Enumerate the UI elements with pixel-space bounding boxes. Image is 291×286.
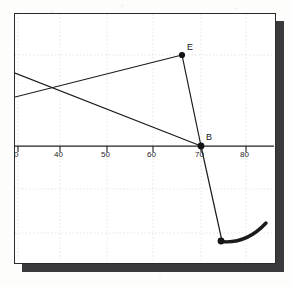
data-lines — [15, 55, 222, 241]
rising-line — [15, 55, 182, 97]
falling-line — [15, 73, 201, 146]
scanned-figure: 0 40 50 60 70 80 E B — [0, 0, 291, 286]
x-tick-label-80: 80 — [240, 150, 249, 159]
x-tick-label-50: 50 — [101, 150, 110, 159]
data-point-markers — [179, 52, 225, 245]
point-marker-v — [218, 238, 225, 245]
gridlines — [15, 14, 274, 262]
x-tick-label-70: 70 — [195, 150, 204, 159]
point-label-b: B — [206, 132, 212, 142]
point-marker-b — [198, 143, 205, 150]
plot-area: 0 40 50 60 70 80 E B — [15, 14, 275, 263]
plot-panel: 0 40 50 60 70 80 E B — [14, 13, 276, 264]
x-tick-label-0: 0 — [14, 150, 18, 159]
thick-arc-curve — [221, 223, 267, 242]
x-axis-ticks — [18, 146, 246, 152]
segment-B-V — [201, 146, 222, 241]
segment-E-B — [182, 55, 201, 146]
point-marker-e — [179, 52, 185, 58]
x-tick-label-40: 40 — [54, 150, 63, 159]
x-tick-label-60: 60 — [147, 150, 156, 159]
plot-graphics — [15, 14, 274, 262]
point-label-e: E — [187, 42, 193, 52]
